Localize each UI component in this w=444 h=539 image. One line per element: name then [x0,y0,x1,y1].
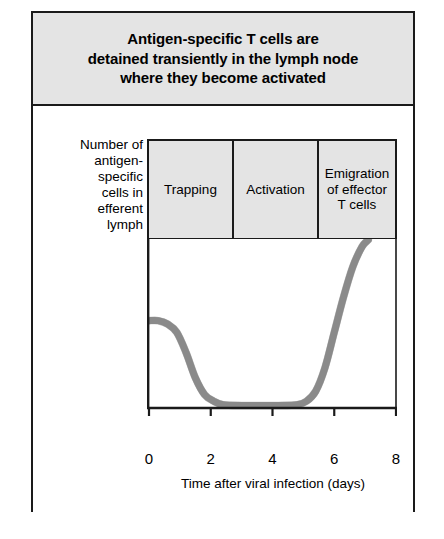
figure-frame: Antigen-specific T cells are detained tr… [31,11,415,512]
phase-box-trapping: Trapping [149,141,234,238]
x-axis-tick-labels: 02468 [147,450,397,472]
x-tick-label-2: 2 [199,450,223,467]
y-axis-label-line-4: cells in [35,185,143,201]
title-line-3: where they become activated [88,68,358,88]
phase-emigration-line-3: T cells [325,197,390,213]
x-axis-label: Time after viral infection (days) [133,476,413,491]
y-axis-label-line-2: antigen- [35,153,143,169]
phase-header-row: Trapping Activation Emigration of effect… [147,139,397,240]
phase-box-emigration: Emigration of effector T cells [319,141,395,238]
y-axis-label-line-3: specific [35,169,143,185]
figure-title-panel: Antigen-specific T cells are detained tr… [33,13,413,106]
phase-label-emigration: Emigration of effector T cells [325,166,390,214]
phase-emigration-line-1: Emigration [325,166,390,182]
y-axis-label-line-6: lymph [35,217,143,233]
chart-panel: Number of antigen- specific cells in eff… [33,108,413,512]
x-tick-label-6: 6 [322,450,346,467]
phase-box-activation: Activation [234,141,319,238]
phase-activation-line-1: Activation [246,182,305,198]
phase-label-activation: Activation [246,182,305,198]
title-line-1: Antigen-specific T cells are [88,29,358,49]
y-axis-label-line-1: Number of [35,137,143,153]
page-title: Antigen-specific T cells are detained tr… [82,29,364,88]
phase-label-trapping: Trapping [164,182,217,198]
y-axis-label: Number of antigen- specific cells in eff… [35,137,143,233]
y-axis-label-line-5: efferent [35,201,143,217]
curve-plot-svg [147,239,397,443]
x-tick-label-8: 8 [384,450,408,467]
title-line-2: detained transiently in the lymph node [88,49,358,69]
plot-area [147,239,397,443]
phase-emigration-line-2: of effector [325,182,390,198]
x-tick-label-0: 0 [137,450,161,467]
x-tick-label-4: 4 [261,450,285,467]
phase-trapping-line-1: Trapping [164,182,217,198]
